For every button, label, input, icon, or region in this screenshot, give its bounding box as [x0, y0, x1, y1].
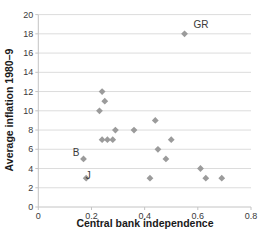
data-point	[168, 136, 175, 143]
data-point	[112, 127, 119, 134]
data-point	[101, 98, 108, 105]
y-tick-label: 0	[28, 202, 33, 212]
y-tick-label: 8	[28, 125, 33, 135]
y-tick-label: 16	[23, 48, 33, 58]
y-axis-title: Average inflation 1980–9	[3, 49, 15, 172]
x-tick-label: 0	[36, 211, 41, 221]
data-point	[155, 146, 162, 153]
data-point	[218, 175, 225, 182]
data-point	[96, 107, 103, 114]
data-point	[109, 136, 116, 143]
data-points: GRBJ	[73, 19, 225, 182]
chart-canvas: 00.20.40.60.802468101214161820GRBJ	[0, 0, 266, 244]
y-tick-label: 10	[23, 106, 33, 116]
data-point	[80, 156, 87, 163]
data-point	[163, 156, 170, 163]
gridlines	[38, 15, 251, 188]
data-point	[181, 30, 188, 37]
data-point	[99, 88, 106, 95]
y-tick-label: 18	[23, 29, 33, 39]
x-axis-title: Central bank independence	[76, 217, 213, 229]
tick-labels: 00.20.40.60.802468101214161820	[23, 10, 257, 221]
point-label: J	[86, 170, 91, 181]
data-point	[131, 127, 138, 134]
y-tick-label: 4	[28, 164, 33, 174]
y-tick-label: 2	[28, 183, 33, 193]
scatter-chart-figure: 00.20.40.60.802468101214161820GRBJ Avera…	[0, 0, 266, 244]
y-tick-label: 14	[23, 67, 33, 77]
data-point	[147, 175, 154, 182]
y-tick-label: 12	[23, 87, 33, 97]
y-tick-label: 20	[23, 10, 33, 20]
point-label: GR	[194, 19, 209, 30]
data-point	[197, 165, 204, 172]
x-tick-label: 0.8	[245, 211, 258, 221]
tick-marks	[35, 15, 251, 210]
y-tick-label: 6	[28, 144, 33, 154]
data-point	[152, 117, 159, 124]
point-label: B	[73, 147, 80, 158]
data-point	[202, 175, 209, 182]
